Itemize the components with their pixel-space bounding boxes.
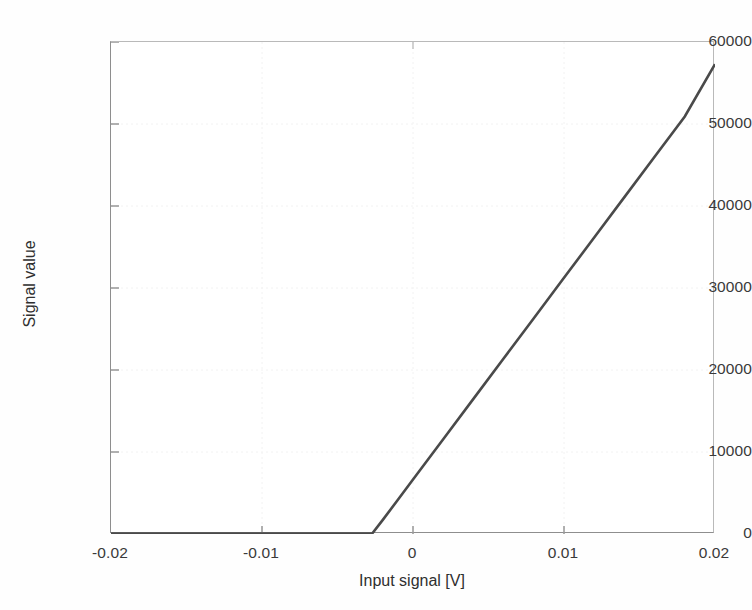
y-axis-title: Signal value	[21, 194, 39, 374]
x-tick-label: 0	[352, 545, 472, 561]
x-tick-label: -0.02	[50, 545, 170, 561]
x-tick-label: 0.01	[503, 545, 623, 561]
x-tick-labels: -0.02 -0.01 0 0.01 0.02	[0, 0, 752, 610]
chart-figure: 60000 50000 40000 30000 20000 10000 0 -0…	[0, 0, 752, 610]
x-tick-label: -0.01	[201, 545, 321, 561]
x-axis-title: Input signal [V]	[110, 572, 714, 590]
x-tick-label: 0.02	[654, 545, 752, 561]
